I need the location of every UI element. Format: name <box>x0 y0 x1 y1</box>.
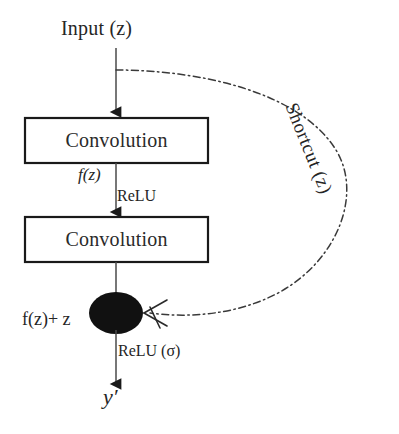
relu-2-label: ReLU (σ) <box>118 343 180 359</box>
diagram-canvas: Input (z) Convolution f(z) ReLU Convolut… <box>0 0 399 434</box>
conv-box-1-label: Convolution <box>25 129 208 152</box>
sum-output-label: f(z)+ z <box>22 310 71 328</box>
relu-1-label: ReLU <box>117 188 156 204</box>
diagram-vector-layer <box>0 0 399 434</box>
output-label: y′ <box>103 386 118 408</box>
fz-label: f(z) <box>78 166 101 183</box>
input-label: Input (z) <box>61 18 132 38</box>
conv-box-2-label: Convolution <box>25 228 208 251</box>
addition-node <box>89 292 143 334</box>
